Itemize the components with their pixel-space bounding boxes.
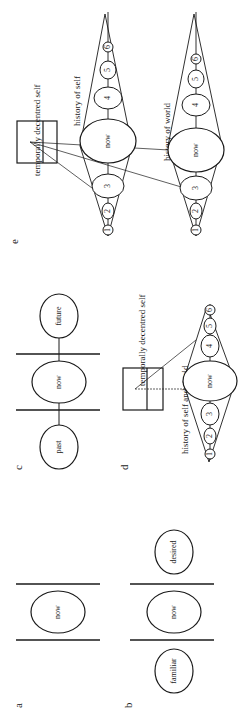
svg-text:1: 1 (103, 228, 112, 232)
diagram-canvas: a now b familiar now desired c past (0, 0, 243, 716)
svg-text:4: 4 (191, 103, 200, 107)
svg-text:1: 1 (191, 228, 200, 232)
panel-label-a: a (12, 703, 24, 708)
svg-text:5: 5 (205, 324, 214, 328)
desired-label: desired (169, 540, 178, 563)
svg-text:now: now (191, 143, 200, 157)
past-label: past (54, 440, 63, 454)
svg-text:6: 6 (205, 308, 214, 312)
svg-text:4: 4 (205, 344, 214, 348)
svg-text:2: 2 (191, 209, 200, 213)
familiar-label: familiar (169, 658, 178, 684)
future-label: future (54, 306, 63, 326)
now-label: now (53, 605, 62, 619)
svg-text:3: 3 (205, 412, 214, 416)
panel-label-c: c (12, 465, 24, 470)
svg-text:2: 2 (103, 209, 112, 213)
history-self-caption: history of self (72, 76, 82, 126)
panel-e: e temporally decentred self history of s… (8, 12, 224, 244)
svg-text:now: now (103, 134, 112, 148)
svg-text:6: 6 (103, 45, 112, 49)
now-label: now (169, 605, 178, 619)
svg-text:now: now (205, 374, 214, 388)
panel-d: d history of self and world temporally d… (118, 295, 237, 470)
now-label: now (54, 375, 63, 389)
panel-label-d: d (118, 464, 130, 470)
decentred-self-caption: temporally decentred self (32, 85, 42, 176)
svg-text:6: 6 (191, 57, 200, 61)
svg-text:2: 2 (205, 434, 214, 438)
decentred-self-caption: temporally decentred self (137, 295, 147, 386)
panel-label-b: b (122, 702, 134, 708)
svg-text:1: 1 (205, 452, 214, 456)
panel-label-e: e (8, 239, 20, 244)
panel-b: b familiar now desired (122, 530, 214, 708)
panel-a: a now (12, 584, 100, 708)
svg-text:5: 5 (103, 68, 112, 72)
svg-text:3: 3 (191, 186, 200, 190)
svg-text:5: 5 (191, 77, 200, 81)
svg-text:4: 4 (103, 96, 112, 100)
svg-text:3: 3 (103, 184, 112, 188)
panel-c: c past now future (12, 294, 100, 470)
